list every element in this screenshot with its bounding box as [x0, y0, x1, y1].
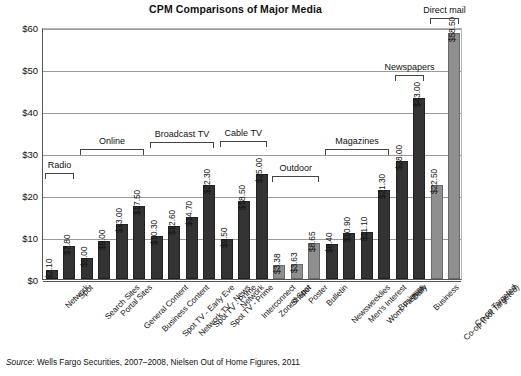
bar-value-label: $43.00: [412, 82, 422, 107]
y-axis-tick-label: $30: [22, 149, 38, 160]
y-axis-tick-label: $20: [22, 191, 38, 202]
gridline: [43, 29, 461, 30]
y-axis: $0$10$20$30$40$50$60: [0, 0, 42, 376]
group-bracket: [45, 173, 75, 179]
bar-value-label: $8.40: [324, 232, 334, 252]
y-axis-tick-label: $40: [22, 107, 38, 118]
group-label: Newspapers: [384, 62, 434, 72]
chart-title: CPM Comparisons of Major Media: [0, 3, 471, 15]
bar: [448, 33, 460, 279]
bar-value-label: $5.00: [79, 247, 89, 267]
gridline: [43, 113, 461, 114]
bar-value-label: $9.00: [97, 230, 107, 250]
y-axis-tick-label: $60: [22, 23, 38, 34]
bar: [431, 185, 443, 280]
x-axis-tick-label: Daily: [410, 283, 429, 302]
group-bracket: [272, 176, 319, 182]
bar-value-label: $18.50: [237, 185, 247, 210]
bar-value-label: $22.30: [202, 169, 212, 194]
bar-value-label: $2.10: [44, 259, 54, 279]
group-bracket: [430, 18, 460, 24]
y-axis-tick-label: $50: [22, 65, 38, 76]
source-text: : Wells Fargo Securities, 2007–2008, Nie…: [32, 357, 300, 367]
bar-value-label: $10.90: [342, 217, 352, 242]
group-label: Magazines: [335, 136, 379, 146]
bar-value-label: $9.50: [219, 228, 229, 248]
bar-value-label: $21.30: [377, 174, 387, 199]
group-label: Broadcast TV: [155, 129, 209, 139]
group-bracket: [395, 75, 425, 81]
group-bracket: [220, 141, 267, 147]
group-bracket: [150, 142, 215, 148]
group-label: Outdoor: [279, 163, 312, 173]
bar-value-label: $13.00: [114, 208, 124, 233]
bar: [238, 201, 250, 279]
bar: [413, 98, 425, 279]
bar: [186, 217, 198, 279]
bar-value-label: $17.50: [132, 189, 142, 214]
group-label: Radio: [48, 160, 72, 170]
gridline: [43, 281, 461, 282]
bar: [133, 206, 145, 280]
source-note: Source: Wells Fargo Securities, 2007–200…: [6, 357, 300, 367]
bar-value-label: $14.70: [184, 201, 194, 226]
bar-value-label: $12.60: [167, 210, 177, 235]
x-axis-tick-label: Bulletin: [325, 283, 350, 308]
group-label: Cable TV: [225, 128, 262, 138]
group-bracket: [80, 149, 145, 155]
x-axis-tick-label: Business: [432, 283, 461, 312]
bar-value-label: $3.63: [289, 252, 299, 272]
y-axis-tick-label: $0: [27, 275, 38, 286]
group-bracket: [325, 149, 390, 155]
group-label: Online: [99, 136, 125, 146]
group-label: Direct mail: [423, 5, 466, 15]
bar-value-label: $10.30: [149, 220, 159, 245]
bar: [203, 185, 215, 279]
bar: [378, 190, 390, 279]
y-axis-tick-label: $10: [22, 233, 38, 244]
bar-value-label: $25.00: [254, 158, 264, 183]
source-label: Source: [6, 357, 32, 367]
bar-value-label: $3.38: [272, 253, 282, 273]
bar-value-label: $11.10: [359, 217, 369, 241]
bar-value-label: $22.50: [429, 168, 439, 193]
x-axis-tick-label: Co-op Targeted: [473, 283, 518, 328]
bar-value-label: $7.80: [62, 235, 72, 255]
bar-value-label: $28.00: [394, 145, 404, 170]
bar: [396, 161, 408, 279]
bar-value-label: $8.65: [307, 231, 317, 251]
bar: [256, 174, 268, 279]
